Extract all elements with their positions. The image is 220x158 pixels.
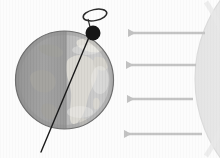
global-scan-stripes [0, 0, 220, 158]
earth-sun-diagram [0, 0, 220, 158]
diagram-canvas: Earth axial tilt and incoming sunlight E… [0, 0, 220, 158]
